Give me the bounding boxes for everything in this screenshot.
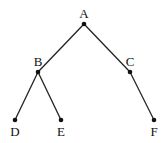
edge-b-d: [15, 72, 38, 120]
node-e: [59, 118, 64, 123]
nodes: [13, 22, 157, 123]
edge-a-b: [38, 24, 84, 72]
label-f: F: [150, 124, 157, 139]
node-d: [13, 118, 18, 123]
edge-a-c: [84, 24, 130, 72]
node-b: [36, 70, 41, 75]
tree-diagram: A B C D E F: [0, 0, 166, 143]
label-c: C: [126, 54, 135, 69]
edge-b-e: [38, 72, 61, 120]
node-c: [128, 70, 133, 75]
node-a: [82, 22, 87, 27]
label-e: E: [57, 124, 65, 139]
label-b: B: [34, 54, 43, 69]
node-f: [152, 118, 157, 123]
edge-c-f: [130, 72, 154, 120]
label-d: D: [10, 124, 19, 139]
label-a: A: [79, 6, 89, 21]
